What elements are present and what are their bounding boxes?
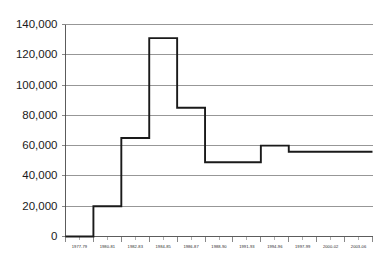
x-tick-label: 1984-85: [155, 244, 171, 249]
y-tick-label: 120,000: [16, 48, 58, 60]
x-tick-label: 1982-83: [128, 244, 144, 249]
gridlines: [66, 25, 373, 207]
chart-container: 140,000120,000100,00080,00060,00040,0002…: [0, 0, 379, 272]
x-axis-ticks: [66, 237, 373, 242]
y-tick-label: 20,000: [22, 200, 57, 212]
x-tick-label: 2000-02: [323, 244, 339, 249]
x-tick-label: 1991-93: [239, 244, 255, 249]
step-chart: 140,000120,000100,00080,00060,00040,0002…: [0, 0, 379, 272]
x-tick-label: 1988-90: [211, 244, 227, 249]
x-tick-label: 2003-06: [351, 244, 367, 249]
y-axis-ticks: [62, 25, 66, 237]
y-tick-label: 40,000: [22, 169, 57, 181]
x-tick-label: 1994-96: [267, 244, 283, 249]
x-axis-tick-labels: 1977-791980-811982-831984-851986-871988-…: [72, 244, 367, 249]
data-series-line: [66, 38, 373, 236]
x-tick-label: 1997-99: [295, 244, 311, 249]
y-tick-label: 0: [51, 230, 57, 242]
y-axis-tick-labels: 140,000120,000100,00080,00060,00040,0002…: [16, 18, 58, 242]
x-tick-label: 1986-87: [183, 244, 199, 249]
y-tick-label: 100,000: [16, 79, 58, 91]
x-tick-label: 1977-79: [72, 244, 88, 249]
y-tick-label: 80,000: [22, 109, 57, 121]
y-tick-label: 140,000: [16, 18, 58, 30]
x-tick-label: 1980-81: [100, 244, 116, 249]
y-tick-label: 60,000: [22, 139, 57, 151]
